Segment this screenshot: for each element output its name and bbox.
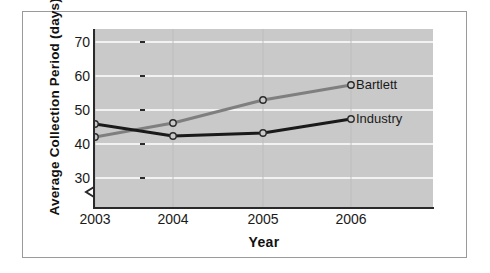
series-label-industry: Industry — [356, 112, 402, 125]
x-axis-ticks: 2003 2004 2005 2006 — [0, 0, 490, 273]
y-axis-title: Average Collection Period (days) — [47, 26, 62, 216]
x-axis-title: Year — [95, 234, 433, 250]
series-label-bartlett: Bartlett — [356, 78, 397, 91]
x-tick-label-2003: 2003 — [65, 212, 125, 226]
x-tick-label-2004: 2004 — [143, 212, 203, 226]
chart-figure: 70 60 50 40 30 2003 2004 2005 2006 Year … — [0, 0, 490, 273]
x-tick-label-2006: 2006 — [321, 212, 381, 226]
x-tick-label-2005: 2005 — [233, 212, 293, 226]
